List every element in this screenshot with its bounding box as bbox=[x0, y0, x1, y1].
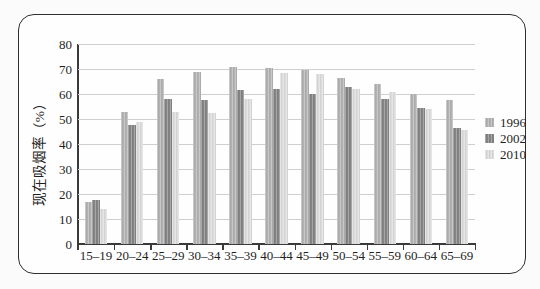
bar-2002-25–29 bbox=[164, 99, 172, 244]
y-tick-label: 60 bbox=[44, 88, 72, 101]
bar-2010-60–64 bbox=[425, 109, 433, 244]
bar-1996-15–19 bbox=[85, 202, 93, 245]
figure-frame: 现在吸烟率（%） 0102030405060708015–1920–2425–2… bbox=[18, 14, 526, 274]
legend: 199620022010 bbox=[485, 114, 526, 162]
bar-2002-65–69 bbox=[453, 128, 461, 244]
bar-2002-60–64 bbox=[417, 108, 425, 244]
bar-2010-50–54 bbox=[352, 89, 360, 244]
y-tick-label: 80 bbox=[44, 38, 72, 51]
legend-label: 1996 bbox=[500, 116, 526, 129]
bar-1996-60–64 bbox=[410, 94, 418, 244]
legend-swatch-1996 bbox=[485, 118, 494, 127]
bar-1996-30–34 bbox=[193, 72, 201, 245]
x-category-label: 55–59 bbox=[369, 248, 402, 264]
bar-1996-20–24 bbox=[121, 112, 129, 245]
gridline-80 bbox=[78, 44, 475, 45]
bar-1996-25–29 bbox=[157, 79, 165, 244]
x-category-label: 50–54 bbox=[332, 248, 365, 264]
x-category-label: 60–64 bbox=[405, 248, 438, 264]
y-tick-label: 50 bbox=[44, 113, 72, 126]
legend-item-1996: 1996 bbox=[485, 114, 526, 130]
bar-2010-45–49 bbox=[316, 74, 324, 244]
bar-2010-35–39 bbox=[244, 99, 252, 244]
y-tick-label: 0 bbox=[44, 238, 72, 251]
plot-area: 0102030405060708015–1920–2425–2930–3435–… bbox=[78, 44, 475, 244]
bar-1996-40–44 bbox=[265, 68, 273, 244]
bar-2002-45–49 bbox=[309, 94, 317, 244]
y-tick-label: 70 bbox=[44, 63, 72, 76]
bar-2002-55–59 bbox=[381, 99, 389, 244]
bar-2002-40–44 bbox=[273, 89, 281, 244]
x-category-label: 65–69 bbox=[441, 248, 474, 264]
bar-1996-55–59 bbox=[374, 84, 382, 244]
y-tick-label: 10 bbox=[44, 213, 72, 226]
y-tick-label: 20 bbox=[44, 188, 72, 201]
bar-2002-30–34 bbox=[201, 100, 209, 244]
bar-2010-20–24 bbox=[136, 122, 144, 245]
gridline-70 bbox=[78, 69, 475, 70]
bar-2010-15–19 bbox=[100, 209, 108, 244]
legend-label: 2010 bbox=[500, 148, 526, 161]
legend-label: 2002 bbox=[500, 132, 526, 145]
x-category-label: 35–39 bbox=[224, 248, 257, 264]
legend-swatch-2002 bbox=[485, 134, 494, 143]
y-tick-label: 40 bbox=[44, 138, 72, 151]
x-category-label: 40–44 bbox=[260, 248, 293, 264]
bar-2002-50–54 bbox=[345, 87, 353, 245]
x-category-label: 15–19 bbox=[80, 248, 113, 264]
x-category-label: 20–24 bbox=[116, 248, 149, 264]
bar-1996-45–49 bbox=[301, 70, 309, 244]
bar-2010-30–34 bbox=[208, 113, 216, 244]
x-category-label: 30–34 bbox=[188, 248, 221, 264]
bar-2002-35–39 bbox=[237, 90, 245, 244]
bar-2010-40–44 bbox=[280, 73, 288, 244]
bar-2002-15–19 bbox=[92, 200, 100, 244]
bar-1996-50–54 bbox=[337, 78, 345, 244]
bar-2010-65–69 bbox=[461, 130, 469, 244]
bar-1996-65–69 bbox=[446, 100, 454, 244]
x-category-label: 45–49 bbox=[296, 248, 329, 264]
bar-2010-55–59 bbox=[389, 92, 397, 245]
legend-swatch-2010 bbox=[485, 150, 494, 159]
bar-1996-35–39 bbox=[229, 67, 237, 245]
legend-item-2002: 2002 bbox=[485, 130, 526, 146]
x-category-label: 25–29 bbox=[152, 248, 185, 264]
bar-2010-25–29 bbox=[172, 112, 180, 245]
y-tick-label: 30 bbox=[44, 163, 72, 176]
bar-2002-20–24 bbox=[128, 125, 136, 244]
x-axis-tick bbox=[475, 245, 476, 250]
legend-item-2010: 2010 bbox=[485, 146, 526, 162]
